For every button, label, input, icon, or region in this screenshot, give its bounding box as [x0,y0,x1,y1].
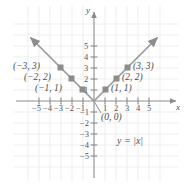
y-tick-label-neg3: −3 [80,130,89,139]
point-label-neg2-2: (−2, 2) [24,73,51,83]
point-label-origin: (0, 0) [101,113,122,123]
x-tick-label-neg2: −2 [65,104,74,113]
x-tick-label-neg4: −4 [43,104,52,113]
point-label-neg3-3: (−3, 3) [13,62,40,72]
y-tick-label-neg2: −2 [80,119,89,128]
point-label-1-1: (1, 1) [111,84,132,94]
absolute-value-graph-figure: x y −5 −4 −3 −2 −1 1 2 3 4 5 5 4 3 2 1 −… [0,0,192,187]
x-tick-label-neg5: −5 [32,104,41,113]
grid-lines [14,6,178,181]
y-tick-label-neg4: −4 [80,141,89,150]
y-tick-label-neg1: −1 [80,108,89,117]
point-label-neg1-1: (−1, 1) [35,84,62,94]
y-axis-label: y [86,6,90,15]
y-tick-label-5: 5 [84,42,88,51]
point-label-3-3: (3, 3) [133,62,154,72]
x-tick-label-3: 3 [125,104,129,113]
equation-annotation: y = |x| [117,136,143,146]
x-tick-label-4: 4 [136,104,140,113]
x-axis-label: x [176,103,180,112]
y-tick-label-2: 2 [84,75,88,84]
point-label-2-2: (2, 2) [122,73,143,83]
x-tick-label-5: 5 [147,104,151,113]
y-tick-label-3: 3 [84,64,88,73]
y-tick-label-1: 1 [84,86,88,95]
graph-canvas [0,0,192,187]
y-tick-label-neg5: −5 [80,152,89,161]
y-tick-label-4: 4 [84,53,88,62]
x-tick-label-neg3: −3 [54,104,63,113]
